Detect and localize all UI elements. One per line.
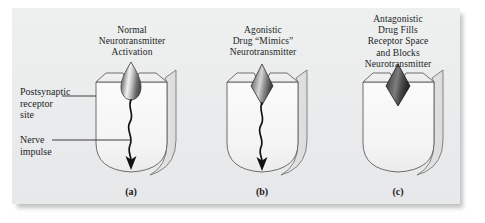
label-postsynaptic-receptor-site: Postsynaptic receptor site [20,86,82,121]
panel-a-title: Normal Neurotransmitter Activation [78,25,186,59]
receptor-c [363,64,443,175]
neurotransmitter-receptor-figure: Normal Neurotransmitter Activation Agoni… [0,0,485,223]
panel-c-title: Antagonistic Drug Fills Receptor Space a… [344,14,452,70]
receptor-b [227,64,307,175]
panel-letter-b: (b) [242,186,282,197]
molecule-a-neurotransmitter [121,62,141,100]
panel-letter-c: (c) [378,186,418,197]
panel-letter-a: (a) [111,186,151,197]
panel-b-title: Agonistic Drug “Mimics” Neurotransmitter [209,25,317,59]
receptor-a [96,62,176,175]
label-nerve-impulse: Nerve impulse [20,134,82,157]
